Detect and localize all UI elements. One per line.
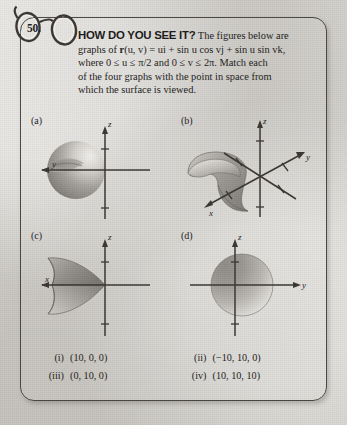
graph-c-x-axis-label: x bbox=[44, 274, 49, 284]
graph-b-x-axis-label: x bbox=[208, 208, 213, 218]
answer-ii-value: (−10, 10, 0) bbox=[213, 352, 261, 363]
graph-a: (a) bbox=[24, 113, 174, 228]
body-line-1: The figures below are bbox=[198, 30, 289, 41]
eyeglasses-icon bbox=[11, 1, 93, 47]
answer-iii-value: (0, 10, 0) bbox=[70, 370, 107, 381]
graph-a-y-axis-label: y bbox=[51, 159, 56, 169]
body-line-5: which the surface is viewed. bbox=[78, 84, 196, 95]
graph-c-plot: z x bbox=[24, 228, 174, 343]
graph-a-z-axis-label: z bbox=[107, 119, 112, 129]
answer-iii-roman: (iii) bbox=[34, 370, 70, 381]
graph-a-plot: z y bbox=[24, 113, 174, 228]
answer-options: (i) (10, 0, 0) (ii) (−10, 10, 0) (iii) (… bbox=[34, 352, 319, 388]
graph-b-plot: z x y bbox=[174, 113, 324, 228]
answer-ii-roman: (ii) bbox=[177, 352, 213, 363]
answer-option-iv[interactable]: (iv) (10, 10, 10) bbox=[177, 370, 320, 381]
graph-d-plot: z y bbox=[174, 228, 324, 343]
graph-c-z-axis-label: z bbox=[107, 232, 112, 242]
answer-row-2: (iii) (0, 10, 0) (iv) (10, 10, 10) bbox=[34, 370, 319, 388]
answer-option-i[interactable]: (i) (10, 0, 0) bbox=[34, 352, 177, 363]
answer-iv-value: (10, 10, 10) bbox=[213, 370, 261, 381]
body-line-4: of the four graphs with the point in spa… bbox=[78, 71, 272, 82]
graph-b: (b) bbox=[174, 113, 324, 228]
graph-d: (d) z bbox=[174, 228, 324, 343]
answer-row-1: (i) (10, 0, 0) (ii) (−10, 10, 0) bbox=[34, 352, 319, 370]
graph-b-y-axis-label: y bbox=[305, 152, 310, 162]
graph-d-z-axis-label: z bbox=[237, 232, 242, 242]
answer-option-ii[interactable]: (ii) (−10, 10, 0) bbox=[177, 352, 320, 363]
graph-b-z-axis-label: z bbox=[262, 116, 267, 126]
body-line-2-terms: ui + sin u cos vj + sin u sin vk, bbox=[158, 44, 285, 55]
graph-d-y-axis-label: y bbox=[301, 280, 306, 290]
answer-iv-roman: (iv) bbox=[177, 370, 213, 381]
how-do-you-see-it-heading: HOW DO YOU SEE IT? bbox=[78, 29, 195, 41]
answer-option-iii[interactable]: (iii) (0, 10, 0) bbox=[34, 370, 177, 381]
answer-i-value: (10, 0, 0) bbox=[70, 352, 107, 363]
exercise-text: HOW DO YOU SEE IT? The figures below are… bbox=[78, 29, 321, 97]
answer-i-roman: (i) bbox=[34, 352, 70, 363]
exercise-number: 50. bbox=[27, 22, 41, 34]
graph-grid: (a) bbox=[24, 113, 324, 343]
graph-c: (c) bbox=[24, 228, 174, 343]
equals-sign: = bbox=[147, 44, 158, 55]
body-line-3: where 0 ≤ u ≤ π/2 and 0 ≤ v ≤ 2π. Match … bbox=[78, 57, 268, 68]
vector-r-arguments: (u, v) bbox=[124, 44, 147, 55]
